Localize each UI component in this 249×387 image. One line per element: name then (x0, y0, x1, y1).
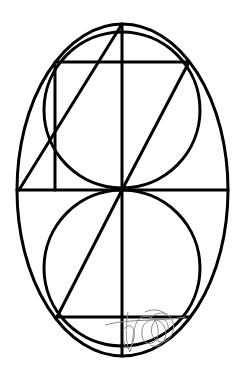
lower-left-diagonal (57, 190, 122, 317)
geometric-diagram (0, 0, 249, 387)
upper-right-diagonal (122, 62, 189, 190)
upper-left-diagonal (19, 24, 122, 190)
